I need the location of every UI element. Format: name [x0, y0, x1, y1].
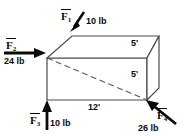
- force-magnitude-f1: 10 lb: [86, 17, 107, 26]
- force-symbol-f3: F: [30, 114, 37, 126]
- front-face-polygon: [47, 58, 147, 100]
- force-subscript-f2: 2: [13, 45, 17, 53]
- force-label-f2: F2: [6, 38, 16, 51]
- box-top-face: [47, 36, 159, 58]
- force-subscript-f1: 1: [68, 16, 72, 24]
- force-label-f1: F1: [61, 9, 71, 22]
- force-symbol-f2: F: [6, 39, 13, 51]
- dimension-label-height-front: 5': [131, 70, 138, 79]
- dimension-label-length-bottom: 12': [88, 103, 100, 112]
- force-diagram-figure: F1 10 lb F2 24 lb F3 10 lb F4 26 lb 5' 5…: [0, 0, 184, 136]
- force-label-f4: F4: [157, 108, 167, 121]
- force-magnitude-f3: 10 lb: [50, 119, 71, 128]
- box-front-face: [47, 58, 147, 100]
- force-magnitude-f4: 26 lb: [138, 124, 159, 133]
- force-symbol-f4: F: [157, 109, 164, 121]
- force-magnitude-f2: 24 lb: [4, 57, 25, 66]
- force-subscript-f3: 3: [37, 120, 41, 128]
- dimension-label-depth-top: 5': [131, 39, 138, 48]
- top-face-polygon: [47, 36, 159, 58]
- force-subscript-f4: 4: [164, 115, 168, 123]
- force-symbol-f1: F: [61, 10, 68, 22]
- force-label-f3: F3: [30, 113, 40, 126]
- force-f1-arrow: [70, 12, 84, 32]
